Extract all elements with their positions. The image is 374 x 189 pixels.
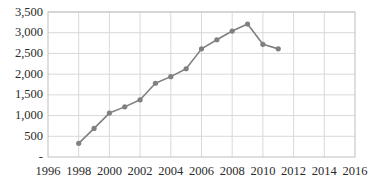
data-point-marker	[138, 97, 143, 102]
data-point-marker	[199, 46, 204, 51]
data-point-marker	[122, 104, 127, 109]
y-axis-tick-label: 2,000	[15, 68, 43, 81]
y-axis-tick-label: 3,500	[15, 6, 43, 19]
y-axis-tick-label: 3,000	[15, 26, 43, 39]
data-point-marker	[168, 74, 173, 79]
data-point-marker	[153, 81, 158, 86]
chart-plot-area	[0, 0, 374, 189]
y-axis-tick-label: 1,500	[15, 88, 43, 101]
data-point-marker	[276, 46, 281, 51]
data-point-marker	[214, 37, 219, 42]
data-point-marker	[230, 28, 235, 33]
y-axis-tick-label: 500	[24, 130, 43, 143]
data-point-marker	[245, 21, 250, 26]
y-axis-tick-label: 1,000	[15, 109, 43, 122]
data-point-marker	[107, 110, 112, 115]
y-axis-tick-label: -	[39, 151, 43, 164]
data-point-marker	[260, 42, 265, 47]
data-point-marker	[184, 66, 189, 71]
y-axis-tick-label: 2,500	[15, 47, 43, 60]
data-point-marker	[91, 126, 96, 131]
line-chart: 3,5003,0002,5002,0001,5001,000500- 19961…	[0, 0, 374, 189]
data-point-marker	[76, 141, 81, 146]
x-axis-tick-label: 2016	[335, 165, 374, 178]
